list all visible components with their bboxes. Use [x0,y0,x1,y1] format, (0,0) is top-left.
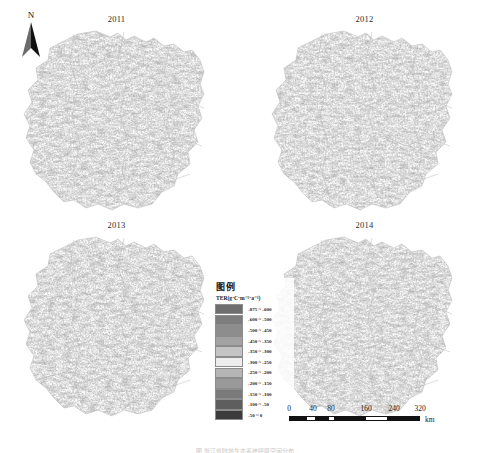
legend-item: -875 ~ -600 [212,304,292,315]
scalebar-segment [366,417,387,420]
legend-item: -600 ~ -500 [212,315,292,326]
legend-label: -200 ~ -150 [248,381,271,386]
legend-swatch [215,399,243,409]
legend-item: -50 ~ 0 [212,410,292,421]
scalebar-tick: 80 [327,404,335,413]
map-scalebar: 0 40 80 160 240 320 km [289,404,449,421]
legend-swatch [215,368,243,378]
scalebar-unit: km [425,415,435,424]
map-panel-2011: 2011 [14,16,219,221]
scalebar-segment [290,417,307,420]
panel-title: 2012 [262,14,467,24]
panel-title: 2014 [262,220,467,230]
legend-item: -450 ~ -350 [212,336,292,347]
map-canvas [14,234,219,426]
legend-label: -250 ~ -200 [248,370,271,375]
legend-item: -100 ~ -50 [212,399,292,410]
legend-label: -500 ~ -450 [248,328,271,333]
legend-label: -100 ~ -50 [248,402,269,407]
legend-swatch [215,336,243,346]
legend-swatch [215,389,243,399]
scalebar-tick: 320 [414,404,425,413]
scalebar-bar [289,416,420,421]
legend-item: -350 ~ -300 [212,346,292,357]
legend-label: -600 ~ -500 [248,317,271,322]
legend-label: -450 ~ -350 [248,339,271,344]
legend-swatch [215,304,243,314]
map-canvas [262,28,467,220]
legend-item: -150 ~ -100 [212,389,292,400]
legend-item: -250 ~ -200 [212,368,292,379]
legend-swatch [215,357,243,367]
legend-swatch [215,410,243,420]
legend-swatch [215,346,243,356]
legend-label: -150 ~ -100 [248,392,271,397]
legend-swatch [215,325,243,335]
scalebar-segment [307,417,315,420]
legend-label: -300 ~ -250 [248,360,271,365]
legend-item: -500 ~ -450 [212,325,292,336]
scalebar-tick: 240 [388,404,399,413]
legend-subtitle: TER(g·C·m⁻²·a⁻¹) [216,295,292,301]
legend-label: -875 ~ -600 [248,307,271,312]
legend-label: -350 ~ -300 [248,349,271,354]
legend-heading: 图例 [216,280,292,293]
map-canvas [14,28,219,220]
legend-swatch [215,315,243,325]
map-panel-2013: 2013 [14,222,219,427]
map-panel-2012: 2012 [262,16,467,221]
map-legend: 图例 TER(g·C·m⁻²·a⁻¹) -875 ~ -600 -600 ~ -… [210,278,294,424]
scalebar-segment [387,417,419,420]
legend-swatch [215,378,243,388]
scalebar-segment [315,417,329,420]
legend-item: -200 ~ -150 [212,378,292,389]
panel-title: 2011 [14,14,219,24]
legend-item: -300 ~ -250 [212,357,292,368]
scalebar-tick: 40 [309,404,317,413]
figure-root: N 2011 [0,0,490,453]
legend-label: -50 ~ 0 [248,413,262,418]
scalebar-tick: 0 [287,404,291,413]
panel-title: 2013 [14,220,219,230]
scalebar-tick: 160 [360,404,371,413]
figure-caption: 图 浙江省陆地生态系统呼吸空间分布 [0,446,490,453]
scalebar-segment [334,417,366,420]
